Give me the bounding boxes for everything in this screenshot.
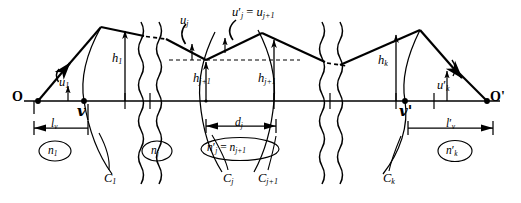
angle-u1-sub: 1 <box>65 81 69 90</box>
leader-C1 <box>99 133 109 170</box>
index-label-nkprime: n′k <box>446 145 458 157</box>
height-label-hk: hk <box>378 54 388 68</box>
surface-label-Ck: Ck <box>383 172 395 186</box>
break-left-wave-1 <box>139 22 144 184</box>
hj1l-sub: j+1 <box>199 77 211 86</box>
surface-label-C1: C1 <box>104 172 116 186</box>
angle-label-uj: uj <box>180 14 188 28</box>
ray-segment-incident-b <box>64 27 101 70</box>
index-label-n1: n1 <box>48 145 57 157</box>
angle-uk-sub: k <box>446 84 450 93</box>
index-label-nj: nj <box>151 145 159 157</box>
njeq-rhs-sub: j+1 <box>235 146 246 155</box>
vertex-vprime-label: v' <box>399 104 412 119</box>
surface-label-Cj: Cj <box>223 172 234 186</box>
break-marks <box>139 22 343 184</box>
height-label-hj1-right: hj+1 <box>258 72 276 86</box>
angle-label-u1: u1 <box>59 76 69 90</box>
dim-arrow-lvp-right <box>481 125 493 132</box>
height-label-h1: h1 <box>112 52 122 66</box>
object-point-dot <box>35 98 41 104</box>
ray-segment-to-right-break <box>262 33 325 62</box>
njeq-equals: = <box>217 141 229 153</box>
break-right-wave-1 <box>320 22 325 184</box>
h1-sub: 1 <box>118 57 122 66</box>
ray-dashed-left-break <box>146 37 166 40</box>
top-angle-equation: u′j = uj+1 <box>232 6 274 20</box>
break-right-wave-2 <box>338 22 343 184</box>
dim-arrow-lv-left <box>34 125 46 132</box>
height-label-hj1-left: hj+1 <box>193 72 211 86</box>
dimension-label-lv: lv <box>51 118 57 130</box>
index-equation-label: n′j = nj+1 <box>207 142 246 154</box>
hj1r-sub: j+1 <box>264 77 276 86</box>
dj-sub: j <box>241 121 243 130</box>
angle-uj-sub: j <box>186 19 188 28</box>
object-point-label: O <box>12 90 23 104</box>
surface-label-leaders <box>99 133 401 171</box>
image-point-label: O' <box>490 90 505 104</box>
surface-label-Cj1: Cj+1 <box>258 172 278 186</box>
ray-segment-exit-b <box>455 69 487 101</box>
ray-segment-inside-1 <box>101 27 144 36</box>
figure-canvas: O O' v v' u1 uj u′k u′j = uj+1 h1 hj+1 h… <box>0 0 521 203</box>
angle-arc-ujprime <box>230 20 236 40</box>
Ck-sub: k <box>391 177 395 186</box>
index-ellipses <box>39 138 472 162</box>
topeq-equals: = <box>243 5 256 19</box>
Cj1-sub: j+1 <box>266 177 278 186</box>
ray-heights <box>125 31 396 101</box>
Cj-sub: j <box>231 177 233 186</box>
lv-sub: v <box>54 122 57 131</box>
dimension-lines <box>34 101 493 135</box>
n1-sub: 1 <box>54 149 58 158</box>
break-left-wave-2 <box>157 22 162 184</box>
C1-sub: 1 <box>112 177 116 186</box>
vertex-cj-dot <box>204 99 207 102</box>
ray-segment-to-Cj <box>166 39 206 60</box>
ray-segment-Cj-to-Cj1 <box>206 33 262 60</box>
topeq-rhs-sub: j+1 <box>263 11 275 20</box>
dimension-label-dj: dj <box>235 117 243 129</box>
nk-sub: k <box>454 149 457 158</box>
lvp-sub: v <box>452 122 455 131</box>
nj-sub: j <box>157 149 159 158</box>
leader-Ck <box>389 136 401 171</box>
dimension-label-lvprime: l′v <box>446 118 455 130</box>
vertex-v-label: v <box>77 104 86 119</box>
hk-sub: k <box>384 59 388 68</box>
angle-label-ukprime: u′k <box>437 79 450 93</box>
dim-arrow-dj-left <box>206 123 218 130</box>
